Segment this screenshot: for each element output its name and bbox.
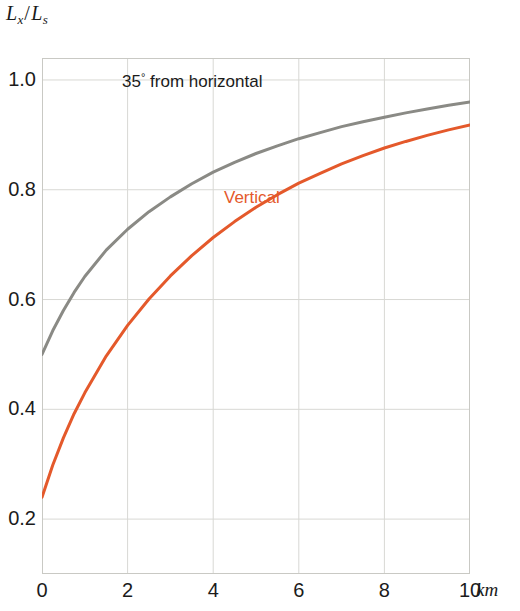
- plot-area: [42, 58, 470, 574]
- y-axis-tick-label: 1.0: [0, 69, 36, 89]
- y-axis-tick-label: 0.4: [0, 398, 36, 418]
- curve-35-deg-from-horizontal: [42, 102, 470, 355]
- curve-vertical: [42, 125, 470, 497]
- y-axis-tick-label: 0.2: [0, 508, 36, 528]
- x-axis-tick-label: 0: [22, 580, 62, 600]
- angle-curve-label-suffix: from horizontal: [145, 72, 262, 91]
- plot-frame: [43, 59, 470, 574]
- x-axis-tick-label: 6: [279, 580, 319, 600]
- x-axis-tick-label: 8: [364, 580, 404, 600]
- angle-curve-label-value: 35: [122, 72, 141, 91]
- y-axis-title-denominator-subscript: s: [43, 12, 48, 27]
- vertical-curve-label: Vertical: [224, 189, 280, 206]
- x-axis-tick-label: 4: [193, 580, 233, 600]
- y-axis-tick-label: 0.8: [0, 179, 36, 199]
- chart-figure: Lx/Ls 0.20.40.60.81.0 0246810 km 35° fro…: [0, 0, 520, 611]
- gridlines: [42, 58, 470, 574]
- plot-border: [43, 59, 470, 574]
- y-axis-tick-label: 0.6: [0, 289, 36, 309]
- x-axis-tick-label: 2: [108, 580, 148, 600]
- y-axis-title-numerator-base: L: [6, 2, 18, 24]
- y-axis-title: Lx/Ls: [6, 2, 48, 28]
- y-axis-title-denominator-base: L: [31, 2, 43, 24]
- chart-canvas: [42, 58, 470, 574]
- angle-curve-label: 35° from horizontal: [122, 72, 263, 90]
- x-axis-unit-label: km: [476, 580, 498, 599]
